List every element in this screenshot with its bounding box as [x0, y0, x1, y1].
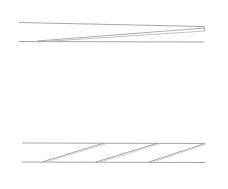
line-drawing — [0, 0, 228, 189]
lower-band-bottom-rule — [22, 162, 205, 163]
lower-band-top-rule — [22, 143, 205, 144]
canvas-background — [0, 0, 228, 189]
drawing-canvas — [0, 0, 228, 189]
